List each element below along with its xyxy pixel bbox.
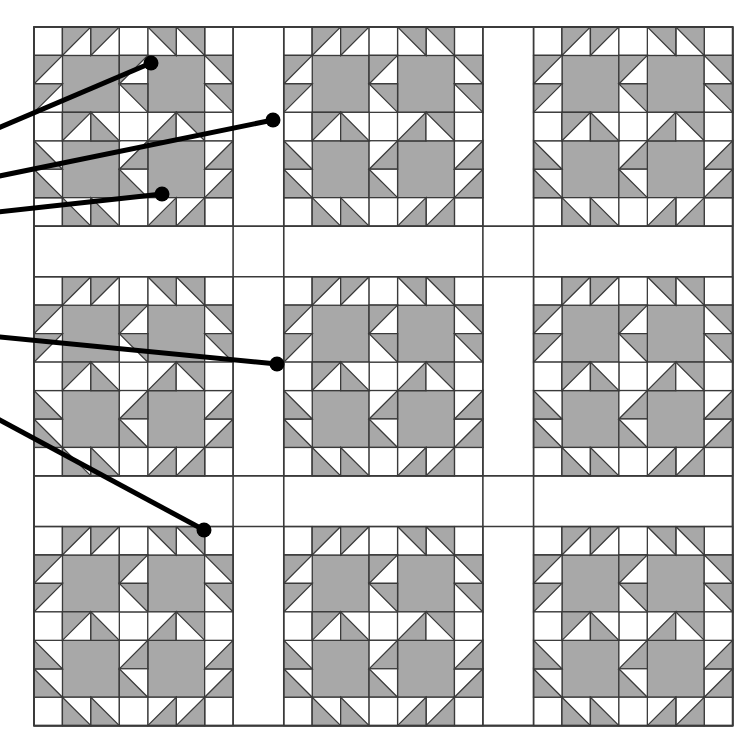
paw-plain-corner — [534, 697, 562, 725]
paw-plain-corner — [454, 697, 482, 725]
paw-center-square — [312, 141, 369, 198]
paw-plain-corner — [284, 697, 312, 725]
quilt-patch-layer — [34, 27, 733, 726]
block-arm-plain — [534, 362, 562, 390]
paw-center-square — [62, 141, 119, 198]
block-center-square — [369, 612, 397, 640]
bears-paw-block-r0c2 — [534, 27, 733, 226]
paw-plain-corner — [34, 277, 62, 305]
block-arm-plain — [534, 612, 562, 640]
bears-paw-block-r1c2 — [534, 277, 733, 476]
paw-center-square — [562, 55, 619, 112]
paw-plain-corner — [205, 447, 233, 475]
paw-plain-corner — [704, 447, 732, 475]
block-arm-plain — [454, 112, 482, 140]
paw-center-square — [148, 640, 205, 697]
paw-plain-corner — [454, 447, 482, 475]
paw-center-square — [647, 305, 704, 362]
paw-center-square — [647, 391, 704, 448]
paw-plain-corner — [205, 697, 233, 725]
block-arm-plain — [369, 527, 397, 555]
block-arm-plain — [284, 112, 312, 140]
leader-3-dot[interactable] — [155, 187, 170, 202]
paw-plain-corner — [534, 277, 562, 305]
block-center-square — [369, 112, 397, 140]
paw-center-square — [62, 555, 119, 612]
block-center-square — [119, 612, 147, 640]
paw-plain-corner — [284, 198, 312, 226]
block-arm-plain — [34, 362, 62, 390]
paw-plain-corner — [534, 447, 562, 475]
block-arm-plain — [619, 447, 647, 475]
leader-2-dot[interactable] — [266, 113, 281, 128]
block-arm-plain — [205, 612, 233, 640]
leader-4-dot[interactable] — [270, 357, 285, 372]
bears-paw-block-r2c2 — [534, 527, 733, 726]
block-arm-plain — [454, 612, 482, 640]
paw-center-square — [562, 640, 619, 697]
paw-center-square — [398, 555, 455, 612]
bears-paw-block-r2c1 — [284, 527, 483, 726]
paw-center-square — [312, 391, 369, 448]
paw-plain-corner — [534, 27, 562, 55]
block-arm-plain — [119, 277, 147, 305]
block-arm-plain — [369, 277, 397, 305]
block-arm-plain — [119, 27, 147, 55]
block-arm-plain — [619, 277, 647, 305]
block-center-square — [369, 362, 397, 390]
block-center-square — [619, 112, 647, 140]
paw-plain-corner — [454, 198, 482, 226]
block-center-square — [119, 112, 147, 140]
paw-plain-corner — [34, 198, 62, 226]
block-arm-plain — [284, 362, 312, 390]
quilt-figure-canvas — [0, 0, 737, 737]
block-arm-plain — [34, 612, 62, 640]
block-arm-plain — [369, 697, 397, 725]
bears-paw-block-r0c1 — [284, 27, 483, 226]
paw-center-square — [398, 391, 455, 448]
paw-plain-corner — [205, 27, 233, 55]
block-arm-plain — [619, 27, 647, 55]
paw-plain-corner — [704, 27, 732, 55]
leader-5-dot[interactable] — [197, 523, 212, 538]
bears-paw-block-r1c1 — [284, 277, 483, 476]
paw-plain-corner — [704, 697, 732, 725]
paw-plain-corner — [704, 277, 732, 305]
paw-plain-corner — [205, 277, 233, 305]
paw-center-square — [398, 305, 455, 362]
paw-center-square — [562, 305, 619, 362]
paw-center-square — [62, 55, 119, 112]
paw-center-square — [312, 555, 369, 612]
paw-plain-corner — [205, 198, 233, 226]
block-arm-plain — [704, 362, 732, 390]
paw-plain-corner — [454, 527, 482, 555]
leader-1-dot[interactable] — [144, 56, 159, 71]
block-arm-plain — [534, 112, 562, 140]
block-arm-plain — [369, 27, 397, 55]
paw-center-square — [398, 640, 455, 697]
block-arm-plain — [369, 198, 397, 226]
paw-center-square — [148, 555, 205, 612]
paw-plain-corner — [284, 277, 312, 305]
paw-center-square — [647, 141, 704, 198]
paw-center-square — [62, 640, 119, 697]
paw-plain-corner — [34, 697, 62, 725]
block-arm-plain — [119, 527, 147, 555]
paw-plain-corner — [34, 527, 62, 555]
paw-center-square — [62, 391, 119, 448]
paw-plain-corner — [534, 527, 562, 555]
block-arm-plain — [205, 362, 233, 390]
paw-center-square — [562, 555, 619, 612]
block-center-square — [619, 612, 647, 640]
paw-center-square — [647, 640, 704, 697]
block-arm-plain — [704, 112, 732, 140]
block-arm-plain — [284, 612, 312, 640]
block-arm-plain — [619, 527, 647, 555]
paw-center-square — [647, 555, 704, 612]
block-arm-plain — [369, 447, 397, 475]
paw-center-square — [398, 141, 455, 198]
block-arm-plain — [619, 697, 647, 725]
paw-plain-corner — [704, 198, 732, 226]
paw-plain-corner — [284, 527, 312, 555]
block-arm-plain — [119, 447, 147, 475]
